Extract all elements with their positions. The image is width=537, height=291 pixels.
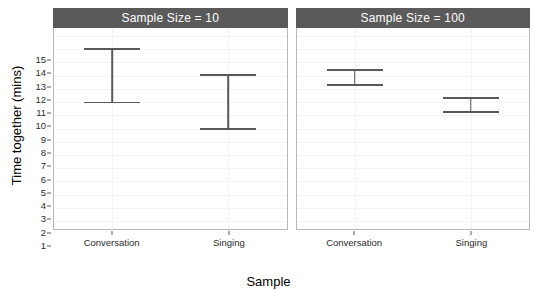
facet-panel: Sample Size = 100	[296, 8, 531, 230]
y-tick-label: 12	[35, 95, 46, 105]
gridline-horizontal	[54, 155, 287, 156]
facet-panels: Sample Size = 10Sample Size = 100	[53, 8, 530, 230]
gridline-horizontal	[297, 89, 530, 90]
error-bar-cap-lower	[443, 111, 499, 113]
facet-strip-label: Sample Size = 100	[296, 8, 531, 28]
x-tick-mark	[471, 231, 472, 235]
error-bar-cap-upper	[327, 69, 383, 71]
gridline-horizontal	[297, 62, 530, 63]
y-tick-label: 10	[35, 122, 46, 132]
gridline-horizontal	[297, 221, 530, 222]
y-tick-mark	[47, 179, 51, 180]
x-tick-mark	[354, 231, 355, 235]
y-tick-label: 11	[36, 108, 46, 118]
gridline-horizontal	[54, 208, 287, 209]
y-tick-label: 4	[41, 201, 46, 211]
error-bar-cap-lower	[84, 102, 140, 104]
error-bar	[443, 97, 499, 113]
x-tick-label: Singing	[456, 237, 488, 248]
y-tick-label: 5	[41, 188, 46, 198]
error-bar-cap-upper	[200, 74, 256, 76]
error-bar-cap-upper	[443, 97, 499, 99]
error-bar-stem	[228, 74, 230, 130]
error-bar-cap-lower	[200, 128, 256, 130]
y-tick-mark	[47, 99, 51, 100]
gridline-horizontal	[297, 195, 530, 196]
y-tick-label: 14	[35, 69, 46, 79]
x-axis-panel: ConversationSinging	[296, 231, 531, 253]
gridline-horizontal	[54, 221, 287, 222]
y-tick-mark	[47, 126, 51, 127]
y-tick-mark	[47, 232, 51, 233]
gridline-horizontal	[54, 142, 287, 143]
gridline-horizontal	[297, 208, 530, 209]
error-bar	[200, 74, 256, 130]
x-tick-label: Singing	[213, 237, 245, 248]
gridline-horizontal	[297, 36, 530, 37]
y-tick-mark	[47, 59, 51, 60]
y-tick-mark	[47, 219, 51, 220]
y-tick-label: 9	[41, 135, 46, 145]
gridline-horizontal	[54, 36, 287, 37]
y-tick-mark	[47, 153, 51, 154]
error-bar	[327, 69, 383, 86]
gridline-horizontal	[297, 142, 530, 143]
y-tick-mark	[47, 113, 51, 114]
error-bar-stem	[111, 48, 113, 104]
y-axis: 123456789101112131415	[22, 32, 52, 230]
y-tick-mark	[47, 192, 51, 193]
facet-panel: Sample Size = 10	[53, 8, 288, 230]
y-tick-label: 6	[41, 175, 46, 185]
x-axis-title: Sample	[0, 274, 537, 289]
gridline-horizontal	[297, 129, 530, 130]
chart-figure: Time together (mins) 1234567891011121314…	[0, 0, 537, 291]
plot-area	[296, 28, 531, 230]
y-tick-label: 8	[41, 148, 46, 158]
error-bar-cap-upper	[84, 48, 140, 50]
error-bar-cap-lower	[327, 84, 383, 86]
y-tick-label: 3	[41, 215, 46, 225]
gridline-horizontal	[297, 168, 530, 169]
gridline-horizontal	[54, 195, 287, 196]
y-tick-label: 1	[41, 241, 46, 251]
gridline-vertical	[471, 28, 472, 229]
gridline-horizontal	[297, 155, 530, 156]
x-axis-panel: ConversationSinging	[53, 231, 288, 253]
gridline-horizontal	[297, 49, 530, 50]
error-bar	[84, 48, 140, 104]
x-tick-label: Conversation	[326, 237, 382, 248]
x-axis: ConversationSingingConversationSinging	[53, 231, 530, 253]
facet-strip-label: Sample Size = 10	[53, 8, 288, 28]
y-tick-mark	[47, 206, 51, 207]
plot-area	[53, 28, 288, 230]
y-tick-label: 15	[35, 55, 46, 65]
x-tick-label: Conversation	[84, 237, 140, 248]
y-tick-label: 13	[35, 82, 46, 92]
y-tick-mark	[47, 86, 51, 87]
gridline-horizontal	[54, 181, 287, 182]
y-tick-mark	[47, 246, 51, 247]
gridline-horizontal	[297, 115, 530, 116]
y-tick-label: 7	[41, 162, 46, 172]
x-tick-mark	[111, 231, 112, 235]
y-tick-mark	[47, 73, 51, 74]
y-tick-mark	[47, 139, 51, 140]
x-tick-mark	[228, 231, 229, 235]
gridline-horizontal	[54, 168, 287, 169]
gridline-horizontal	[297, 181, 530, 182]
gridline-vertical	[355, 28, 356, 229]
y-tick-label: 2	[41, 228, 46, 238]
y-tick-mark	[47, 166, 51, 167]
